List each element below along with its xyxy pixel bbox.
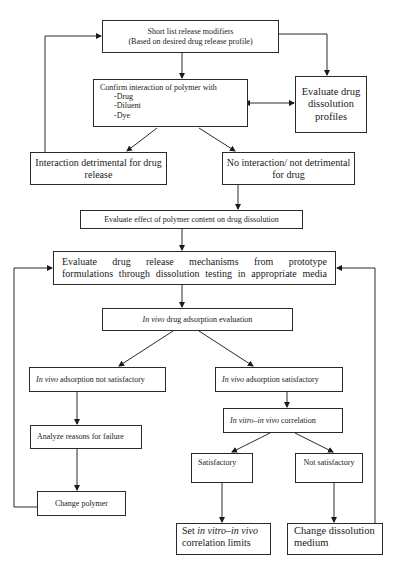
edge-ivivc-satisfactory [232, 433, 270, 452]
node-polymer-content: Evaluate effect of polymer content on dr… [80, 210, 303, 229]
edge-confirm-nointeraction [199, 128, 235, 151]
node-set-limits-italic: in vitro–in vivo [197, 525, 258, 536]
node-satisfactory-text: Satisfactory [198, 458, 236, 467]
node-evaluate-profiles-text: Evaluate drug dissolution profiles [299, 86, 363, 122]
node-set-limits-pre: Set [182, 525, 197, 536]
node-confirm: Confirm interaction of polymer with -Dru… [93, 79, 248, 127]
node-analyze-text: Analyze reasons for failure [37, 432, 124, 441]
node-mechanisms: Evaluate drug release mechanisms from pr… [53, 251, 336, 285]
node-change-medium-line1: Change dissolution [294, 525, 375, 537]
edge-changemedium-mechanisms [337, 268, 375, 523]
node-invivo-not-satisfactory: In vivo adsorption not satisfactory [29, 367, 166, 392]
node-invivo-eval: In vivo drug adsorption evaluation [102, 308, 293, 331]
node-change-polymer: Change polymer [37, 491, 126, 516]
edge-invivo-sat [199, 331, 253, 366]
node-detrimental: Interaction detrimental for drug release [30, 152, 167, 185]
node-invivo-eval-rest: drug adsorption evaluation [165, 315, 253, 324]
node-invivo-sat-rest: adsorption satisfactory [244, 375, 319, 384]
node-change-medium-line2: medium [294, 537, 328, 549]
node-confirm-item-dye: -Dye [100, 111, 241, 120]
node-no-interaction: No interaction/ not detrimental for drug [222, 152, 355, 185]
node-change-polymer-text: Change polymer [55, 499, 108, 508]
node-invivo-not-sat-italic: In vivo [36, 375, 58, 384]
node-confirm-item-drug: -Drug [100, 92, 241, 101]
node-invivo-satisfactory: In vivo adsorption satisfactory [215, 367, 343, 392]
node-ivivc-italic: In vitro–in vivo [230, 416, 279, 425]
node-confirm-item-diluent: -Diluent [100, 101, 241, 110]
node-not-satisfactory: Not satisfactory [295, 453, 363, 483]
node-shortlist-line1: Short list release modifiers [148, 27, 234, 36]
node-not-satisfactory-text: Not satisfactory [304, 458, 355, 467]
node-set-limits: Set in vitro–in vivo correlation limits [176, 523, 271, 555]
node-change-medium: Change dissolution medium [287, 523, 383, 555]
node-invivo-eval-italic: In vivo [143, 315, 165, 324]
node-mechanisms-line1: Evaluate drug release mechanisms from pr… [62, 256, 327, 268]
node-set-limits-post: correlation limits [182, 537, 251, 549]
node-ivivc: In vitro–in vivo correlation [223, 408, 343, 433]
node-shortlist: Short list release modifiers (Based on d… [102, 20, 279, 53]
edge-confirm-detrimental [127, 128, 157, 151]
node-invivo-sat-italic: In vivo [222, 375, 244, 384]
node-analyze: Analyze reasons for failure [30, 425, 142, 449]
node-detrimental-text: Interaction detrimental for drug release [34, 157, 163, 180]
edge-invivo-notsat [119, 331, 173, 366]
node-confirm-title: Confirm interaction of polymer with [100, 83, 241, 92]
edge-ivivc-notsatisfactory [295, 433, 333, 452]
node-mechanisms-line2: formulations through dissolution testing… [62, 268, 327, 280]
edge-shortlist-profiles [279, 34, 327, 75]
node-polymer-content-text: Evaluate effect of polymer content on dr… [104, 215, 279, 224]
node-satisfactory: Satisfactory [191, 453, 253, 483]
node-no-interaction-text: No interaction/ not detrimental for drug [226, 157, 351, 180]
node-invivo-not-sat-rest: adsorption not satisfactory [58, 375, 145, 384]
node-shortlist-line2: (Based on desired drug release profile) [128, 37, 252, 46]
node-ivivc-rest: correlation [279, 416, 316, 425]
node-evaluate-profiles: Evaluate drug dissolution profiles [295, 76, 367, 133]
